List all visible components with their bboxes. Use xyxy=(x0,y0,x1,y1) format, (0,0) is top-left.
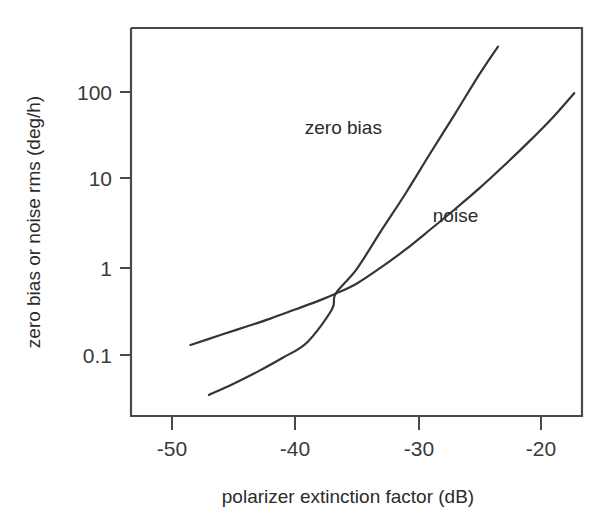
series-label-zero-bias: zero bias xyxy=(305,117,382,138)
x-tick-label-minus50: -50 xyxy=(157,437,187,460)
x-tick-label-minus20: -20 xyxy=(526,437,556,460)
x-axis-tick-labels: -50 -40 -30 -20 xyxy=(157,437,556,460)
chart-figure: 100 10 1 0.1 -50 -40 -30 -20 polarizer e… xyxy=(0,0,608,524)
x-tick-label-minus40: -40 xyxy=(280,437,310,460)
plot-frame xyxy=(131,28,582,416)
y-axis-ticks xyxy=(120,92,131,355)
y-tick-label-0-1: 0.1 xyxy=(83,344,112,367)
y-tick-label-10: 10 xyxy=(89,167,112,190)
x-axis-title: polarizer extinction factor (dB) xyxy=(222,486,474,507)
x-axis-ticks xyxy=(172,416,541,430)
series-curves xyxy=(190,47,574,395)
series-annotations: zero bias noise xyxy=(305,117,478,226)
x-tick-label-minus30: -30 xyxy=(404,437,434,460)
curve-noise xyxy=(190,93,574,345)
chart-canvas: 100 10 1 0.1 -50 -40 -30 -20 polarizer e… xyxy=(0,0,608,524)
y-tick-label-100: 100 xyxy=(77,81,112,104)
series-label-noise: noise xyxy=(433,205,478,226)
y-tick-label-1: 1 xyxy=(100,257,112,280)
y-axis-tick-labels: 100 10 1 0.1 xyxy=(77,81,112,367)
y-axis-title: zero bias or noise rms (deg/h) xyxy=(23,96,44,348)
